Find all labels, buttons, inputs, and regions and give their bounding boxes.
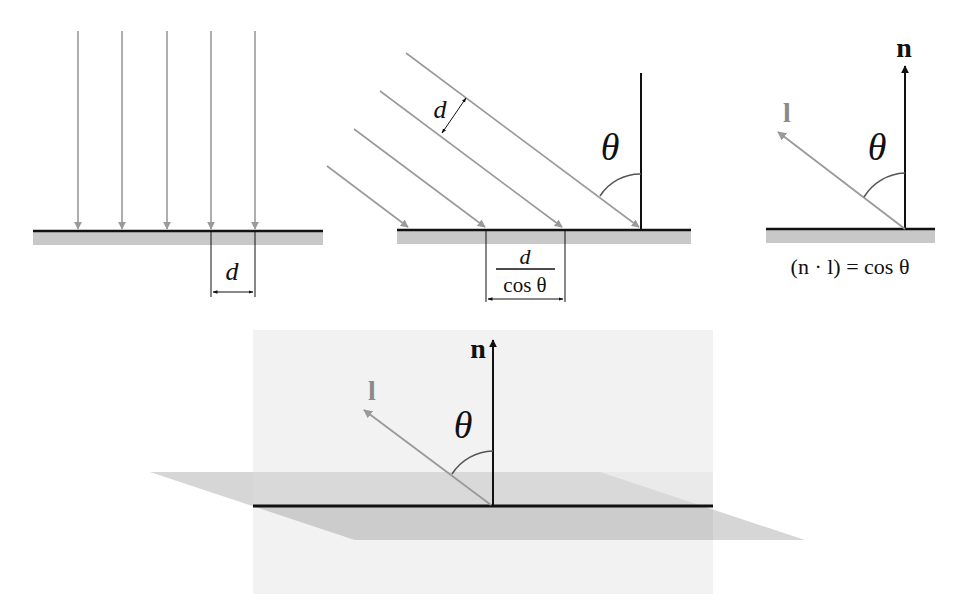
light-label: l	[783, 97, 791, 128]
angle-label: θ	[868, 126, 887, 168]
angle-label: θ	[454, 404, 473, 446]
angle-label: θ	[601, 126, 620, 168]
surface-fill	[766, 230, 935, 243]
equation: (n · l) = cos θ	[791, 254, 910, 279]
footprint-numerator: d	[520, 244, 532, 269]
angle-arc	[600, 174, 641, 196]
panel-oblique: d θ d cos θ	[327, 53, 691, 302]
angle-arc	[864, 173, 905, 197]
light-label: l	[368, 375, 376, 406]
ray	[380, 91, 562, 227]
ray-spacing-label: d	[434, 95, 448, 124]
normal-label: n	[470, 333, 486, 364]
lambert-cosine-diagram: d d θ d cos θ n l θ (n	[0, 0, 958, 616]
normal-label: n	[896, 32, 912, 63]
panel-perpendicular: d	[33, 31, 323, 297]
surface-fill	[397, 231, 691, 244]
light-rays	[78, 31, 255, 229]
panel-3d-view: n l θ	[150, 330, 805, 594]
ray	[327, 166, 408, 227]
wall-upper-tint	[253, 472, 713, 506]
footprint-denominator: cos θ	[503, 273, 546, 297]
spacing-label: d	[226, 257, 240, 286]
back-wall	[253, 330, 713, 594]
panel-dot-product: n l θ (n · l) = cos θ	[766, 32, 935, 279]
surface-fill	[33, 231, 323, 245]
light-rays	[327, 53, 639, 227]
ray	[354, 129, 485, 227]
